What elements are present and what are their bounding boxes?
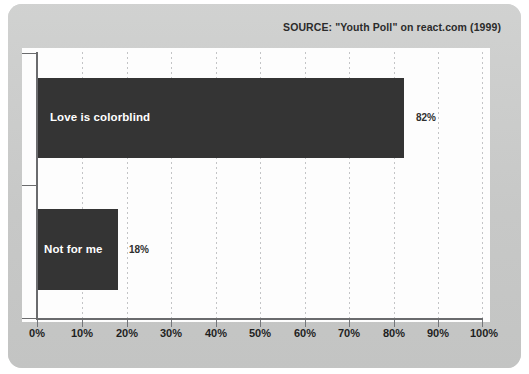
x-axis-tick-label: 10% bbox=[71, 327, 93, 339]
x-axis-tick-label: 70% bbox=[338, 327, 360, 339]
y-axis-tick bbox=[22, 53, 38, 54]
x-axis-tick-labels: 0% 10% 20% 30% 40% 50% 60% 70% 80% 90% 1… bbox=[22, 322, 490, 344]
x-axis-tick-label: 40% bbox=[205, 327, 227, 339]
x-axis-tick-label: 60% bbox=[294, 327, 316, 339]
x-axis-tick-label: 80% bbox=[383, 327, 405, 339]
y-axis-line bbox=[36, 52, 38, 320]
source-attribution: SOURCE: "Youth Poll" on react.com (1999) bbox=[283, 21, 501, 33]
x-axis-tick-label: 50% bbox=[249, 327, 271, 339]
x-axis-tick-label: 30% bbox=[160, 327, 182, 339]
axis-layer bbox=[22, 48, 490, 322]
x-axis-tick-label: 90% bbox=[427, 327, 449, 339]
x-axis-tick-label: 20% bbox=[116, 327, 138, 339]
y-axis-tick bbox=[22, 318, 38, 319]
plot-canvas: Love is colorblind 82% Not for me 18% bbox=[22, 48, 490, 322]
x-axis-tick-label: 0% bbox=[29, 327, 45, 339]
y-axis-tick bbox=[22, 185, 38, 186]
x-axis-tick-label: 100% bbox=[470, 327, 498, 339]
chart-screenshot: SOURCE: "Youth Poll" on react.com (1999)… bbox=[0, 0, 529, 374]
